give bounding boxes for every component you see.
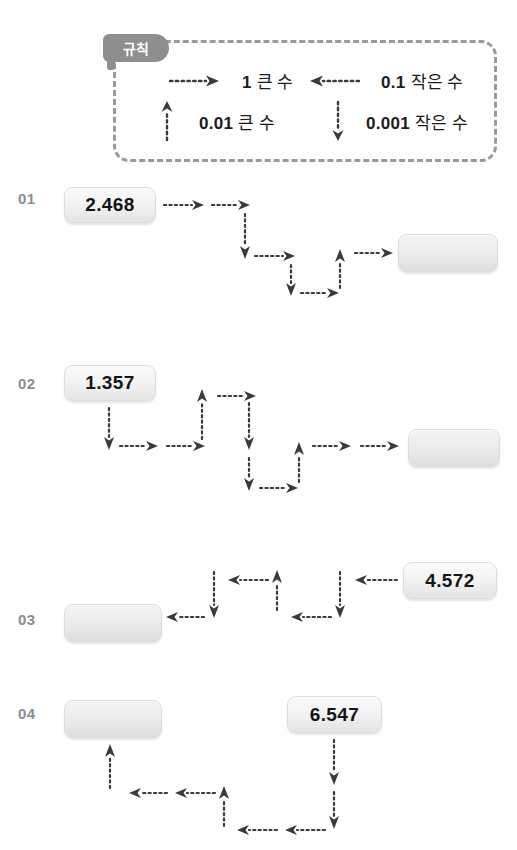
arrow-down-icon <box>335 572 345 618</box>
arrow-right-icon <box>120 441 158 451</box>
arrow-up-icon <box>105 744 115 788</box>
worksheet-sheet: 규칙 1큰 수 0.1작은 수 0.01큰 수 <box>0 0 517 850</box>
arrow-left-icon <box>175 788 215 798</box>
problem-02-answer-box[interactable] <box>408 429 500 467</box>
arrow-down-icon <box>329 792 339 829</box>
rule-entry-right-text: 1큰 수 <box>242 68 294 93</box>
problem-02-arrow-path <box>104 389 399 493</box>
arrow-down-icon <box>286 265 296 296</box>
arrow-right-icon <box>218 391 256 401</box>
arrow-left-icon <box>237 825 277 835</box>
rule-entry-left: 0.1작은 수 <box>307 68 463 93</box>
problem-04-start-chip: 6.547 <box>287 696 382 733</box>
arrow-up-icon <box>335 249 345 288</box>
arrow-left-icon <box>285 825 325 835</box>
rule-entry-left-text: 0.1작은 수 <box>381 68 463 93</box>
arrow-right-icon <box>255 251 295 261</box>
arrow-right-icon <box>260 483 298 493</box>
problem-01-answer-box[interactable] <box>398 234 498 272</box>
rule-entry-down: 0.001작은 수 <box>330 100 468 142</box>
arrow-right-icon <box>313 441 351 451</box>
arrow-up-icon <box>272 570 282 610</box>
arrow-down-icon <box>209 572 219 618</box>
arrow-down-icon <box>329 740 339 785</box>
arrow-right-icon <box>301 288 339 298</box>
problem-03-arrow-path <box>166 570 397 622</box>
problem-label-01: 01 <box>18 190 36 207</box>
arrow-up-icon <box>294 442 304 482</box>
arrow-up-icon <box>197 389 207 439</box>
problem-03-answer-box[interactable] <box>64 604 162 642</box>
arrow-left-icon <box>228 575 268 585</box>
arrow-down-icon <box>240 214 250 259</box>
arrow-right-icon <box>164 200 204 210</box>
arrow-down-icon <box>104 408 114 450</box>
right-arrow-icon <box>168 73 222 89</box>
problem-label-03: 03 <box>18 611 36 628</box>
arrow-right-icon <box>167 441 205 451</box>
up-arrow-icon <box>159 100 175 142</box>
rule-entry-up-text: 0.01큰 수 <box>199 109 275 134</box>
arrow-up-icon <box>219 786 229 826</box>
rule-entry-right: 1큰 수 <box>168 68 294 93</box>
left-arrow-icon <box>307 73 361 89</box>
arrow-right-icon <box>355 248 393 258</box>
arrow-down-icon <box>244 458 254 491</box>
rule-entry-up: 0.01큰 수 <box>159 100 275 142</box>
arrow-left-icon <box>291 612 331 622</box>
down-arrow-icon <box>330 100 346 142</box>
problem-04-answer-box[interactable] <box>64 700 162 738</box>
problem-03-start-chip: 4.572 <box>403 562 497 599</box>
problem-01-arrow-path <box>164 200 393 298</box>
arrow-right-icon <box>212 200 250 210</box>
arrow-left-icon <box>166 612 204 622</box>
problem-02-start-chip: 1.357 <box>64 365 156 401</box>
rule-tab-label: 규칙 <box>103 34 169 62</box>
problem-label-04: 04 <box>18 705 36 722</box>
arrow-left-icon <box>355 575 397 585</box>
arrow-down-icon <box>244 403 254 450</box>
arrow-left-icon <box>129 788 167 798</box>
problem-04-arrow-path <box>105 740 339 835</box>
problem-label-02: 02 <box>18 375 36 392</box>
problem-01-start-chip: 2.468 <box>64 187 156 223</box>
arrow-right-icon <box>361 441 399 451</box>
rule-entry-down-text: 0.001작은 수 <box>366 109 468 134</box>
